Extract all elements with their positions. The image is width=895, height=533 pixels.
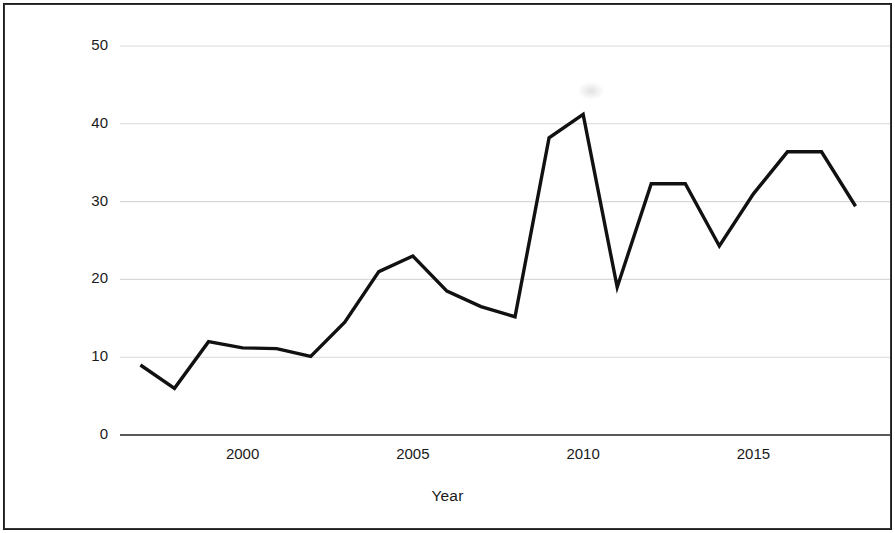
series-polyline bbox=[140, 114, 855, 388]
x-axis-tick-label: 2010 bbox=[543, 445, 623, 462]
chart-page: Number of Policy Memoranda Year 01020304… bbox=[0, 0, 895, 533]
gridlines bbox=[120, 46, 890, 357]
x-axis-tick-label: 2005 bbox=[373, 445, 453, 462]
y-axis-tick-label: 30 bbox=[62, 192, 108, 209]
y-axis-tick-label: 0 bbox=[62, 425, 108, 442]
x-axis-tick-label: 2000 bbox=[203, 445, 283, 462]
x-axis-title: Year bbox=[0, 487, 895, 505]
data-series-line bbox=[140, 114, 855, 388]
y-axis-tick-label: 50 bbox=[62, 36, 108, 53]
y-axis-tick-label: 10 bbox=[62, 347, 108, 364]
line-chart: Number of Policy Memoranda Year 01020304… bbox=[0, 0, 895, 533]
y-axis-tick-label: 40 bbox=[62, 114, 108, 131]
x-axis-tick-label: 2015 bbox=[713, 445, 793, 462]
y-axis-tick-label: 20 bbox=[62, 269, 108, 286]
